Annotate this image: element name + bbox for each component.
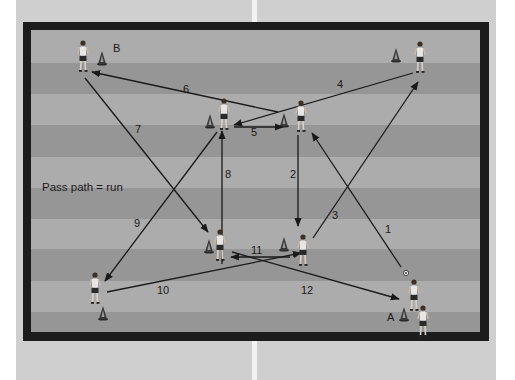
player-icon xyxy=(219,98,229,129)
pass-number-label: 7 xyxy=(135,123,141,135)
pass-number-label: 6 xyxy=(183,83,189,95)
ball-icon xyxy=(403,270,408,275)
pass-number-label: 9 xyxy=(134,217,140,229)
cone-icon xyxy=(279,113,289,128)
pass-number-label: 11 xyxy=(251,244,262,256)
drill-diagram: Pass path = run 123456789101112BA xyxy=(0,0,515,380)
ball xyxy=(403,270,408,275)
player-icon xyxy=(415,41,425,72)
pass-number-label: 1 xyxy=(385,223,391,235)
pass-number-label: 8 xyxy=(225,168,231,180)
group-label-A: A xyxy=(387,311,395,323)
pass-arrow-1 xyxy=(312,133,401,267)
cone-icon xyxy=(279,237,289,252)
pass-arrow-12 xyxy=(232,252,399,299)
cone-icon xyxy=(98,306,108,321)
group-label-B: B xyxy=(113,42,120,54)
caption-pass-path: Pass path = run xyxy=(42,181,123,193)
pass-number-label: 10 xyxy=(157,284,169,296)
pass-number-label: 5 xyxy=(251,126,257,138)
cone-icon xyxy=(399,307,409,322)
pass-number-label: 2 xyxy=(290,168,296,180)
player-icon xyxy=(409,279,419,310)
player-icon xyxy=(418,305,428,336)
player-icon xyxy=(90,272,100,303)
pass-arrow-10 xyxy=(107,253,301,292)
cone-icon xyxy=(97,51,107,66)
pass-arrows xyxy=(85,72,418,299)
cone-icon xyxy=(391,48,401,63)
player-icon xyxy=(78,40,88,71)
player-icon xyxy=(298,234,308,265)
pass-number-label: 12 xyxy=(301,284,313,296)
pass-arrow-9 xyxy=(105,132,217,281)
pass-number-label: 4 xyxy=(337,78,343,90)
player-icon xyxy=(215,229,225,260)
pass-arrow-7 xyxy=(85,78,208,232)
cones xyxy=(97,48,409,322)
cone-icon xyxy=(204,239,214,254)
pass-arrow-4 xyxy=(234,73,413,125)
cone-icon xyxy=(205,114,215,129)
pass-number-label: 3 xyxy=(332,209,338,221)
